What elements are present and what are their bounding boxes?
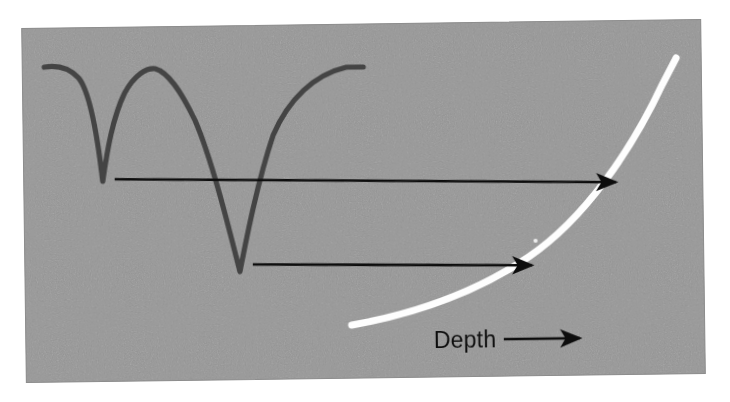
depth-label-text: Depth bbox=[434, 326, 497, 353]
figure-canvas: Depth bbox=[0, 0, 730, 402]
gray-photo-panel bbox=[22, 20, 706, 383]
figure-container: Depth bbox=[0, 0, 730, 402]
depth-arrow bbox=[504, 338, 580, 339]
